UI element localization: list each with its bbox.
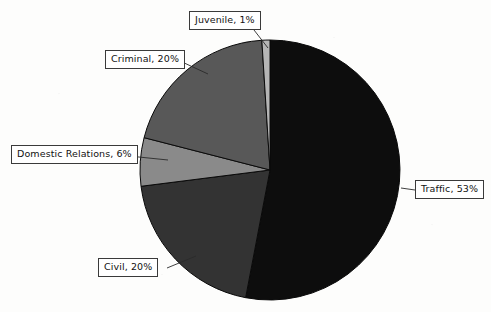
pie-chart: Juvenile, 1% Criminal, 20% Domestic Rela… xyxy=(0,0,491,312)
pie-slices xyxy=(140,40,400,300)
callout-criminal[interactable]: Criminal, 20% xyxy=(105,50,185,69)
callout-civil[interactable]: Civil, 20% xyxy=(98,258,158,277)
callout-juvenile[interactable]: Juvenile, 1% xyxy=(189,11,261,30)
callout-domestic-relations[interactable]: Domestic Relations, 6% xyxy=(11,145,138,164)
callout-traffic[interactable]: Traffic, 53% xyxy=(415,180,484,199)
leader-line-traffic xyxy=(401,188,415,190)
